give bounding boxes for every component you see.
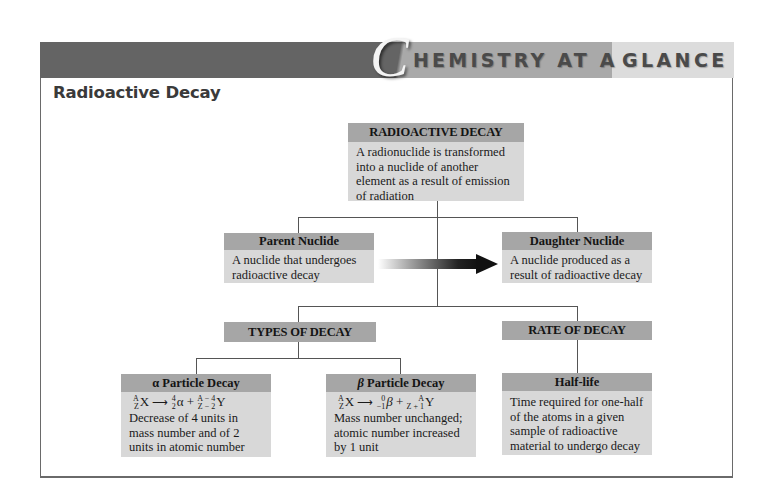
atomic-number: 2	[172, 403, 176, 411]
connector-types-trunk	[298, 342, 299, 358]
node-title: RADIOACTIVE DECAY	[348, 123, 524, 142]
node-title-text: Particle Decay	[367, 376, 444, 390]
node-description: Decrease of 4 units in mass number and o…	[129, 411, 263, 455]
node-half-life: Half-life Time required for one-half of …	[502, 373, 652, 455]
connector-to-types	[298, 306, 299, 322]
connector-types-bar	[196, 358, 401, 359]
node-title-text: Particle Decay	[162, 376, 239, 390]
product-symbol: Y	[425, 394, 434, 409]
node-body: AZX ⟶ 0−1β + AZ + 1Y Mass number unchang…	[326, 392, 476, 457]
connector-to-halflife	[577, 340, 578, 374]
node-body: A radionuclide is transformed into a nuc…	[348, 142, 524, 201]
section-title: Radioactive Decay	[53, 83, 220, 102]
reactant-symbol: X	[345, 394, 354, 409]
connector-nuclide-bar	[298, 217, 578, 218]
node-body: A nuclide produced as a result of radioa…	[502, 250, 652, 283]
node-title: Half-life	[502, 373, 652, 391]
banner-title-part1: HEMISTRY AT A	[413, 49, 618, 71]
node-parent-nuclide: Parent Nuclide A nuclide that undergoes …	[224, 233, 374, 283]
node-radioactive-decay: RADIOACTIVE DECAY A radionuclide is tran…	[348, 123, 524, 201]
reaction-arrow-icon: ⟶	[357, 396, 373, 408]
transformation-arrow-shaft	[378, 259, 478, 269]
atomic-number: Z − 2	[197, 403, 215, 411]
beta-symbol: β	[358, 376, 364, 390]
arrow-right-icon	[476, 254, 498, 274]
node-description: Mass number unchanged; atomic number inc…	[334, 411, 468, 455]
node-types-of-decay: TYPES OF DECAY	[224, 322, 376, 342]
atomic-number: −1	[377, 403, 386, 411]
connector-to-alpha	[196, 358, 197, 374]
banner-dark-segment	[40, 42, 412, 78]
reaction-arrow-icon: ⟶	[152, 396, 168, 408]
connector-to-beta	[400, 358, 401, 374]
node-body: Time required for one-half of the atoms …	[502, 391, 652, 455]
banner-title-part2: GLANCE	[622, 49, 728, 71]
connector-to-daughter	[577, 217, 578, 232]
node-title: Parent Nuclide	[224, 233, 374, 250]
beta-equation: AZX ⟶ 0−1β + AZ + 1Y	[334, 394, 468, 411]
node-title: α Particle Decay	[121, 374, 271, 392]
node-beta-decay: β Particle Decay AZX ⟶ 0−1β + AZ + 1Y Ma…	[326, 374, 476, 457]
atomic-number: Z	[338, 403, 344, 411]
atomic-number: Z	[133, 403, 139, 411]
particle-symbol: α	[177, 394, 184, 409]
node-daughter-nuclide: Daughter Nuclide A nuclide produced as a…	[502, 232, 652, 283]
connector-decay-bar	[298, 306, 578, 307]
node-body: A nuclide that undergoes radioactive dec…	[224, 250, 374, 283]
connector-to-rate	[577, 306, 578, 321]
plus-sign: +	[396, 394, 403, 409]
product-symbol: Y	[216, 394, 225, 409]
reactant-symbol: X	[140, 394, 149, 409]
node-alpha-decay: α Particle Decay AZX ⟶ 42α + A − 4Z − 2Y…	[121, 374, 271, 457]
node-title: β Particle Decay	[326, 374, 476, 392]
atomic-number: Z + 1	[407, 403, 424, 411]
node-title: Daughter Nuclide	[502, 232, 652, 250]
plus-sign: +	[187, 394, 194, 409]
alpha-symbol: α	[152, 376, 159, 390]
connector-to-parent	[298, 217, 299, 233]
particle-symbol: β	[386, 394, 392, 409]
node-body: AZX ⟶ 42α + A − 4Z − 2Y Decrease of 4 un…	[121, 392, 271, 457]
node-rate-of-decay: RATE OF DECAY	[502, 321, 652, 340]
alpha-equation: AZX ⟶ 42α + A − 4Z − 2Y	[129, 394, 263, 411]
